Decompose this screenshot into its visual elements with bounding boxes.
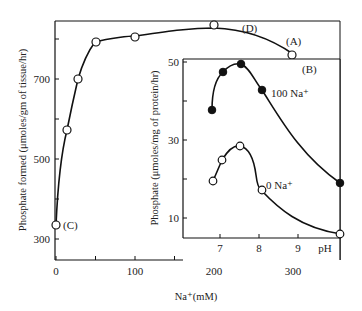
main-ytick-300: 300: [34, 233, 51, 245]
data-point: [258, 86, 266, 94]
data-point: [131, 33, 139, 41]
data-point: [210, 21, 218, 29]
label-a: (A): [286, 35, 302, 48]
inset-ytick-50: 50: [168, 56, 180, 68]
inset-xtick-8: 8: [256, 242, 262, 254]
inset-chart: 50 30 10 7 8 9 pH Phosphate (μmoles/mg o…: [149, 56, 344, 268]
main-y-axis-title: Phosphate formed (μmoles/gm of tissue/hr…: [17, 48, 29, 231]
inset-xtick-9: 9: [295, 242, 301, 254]
data-point: [208, 106, 216, 114]
main-xtick-0: 0: [53, 265, 59, 277]
data-point: [258, 186, 266, 194]
inset-x-axis-title: pH: [318, 242, 332, 254]
data-point: [288, 51, 296, 59]
label-100-na: 100 Na⁺: [271, 87, 309, 99]
inset-ytick-10: 10: [168, 212, 180, 224]
data-point: [236, 142, 244, 150]
data-point: [237, 60, 245, 68]
main-x-axis-title: Na⁺(mM): [175, 291, 218, 303]
data-point: [63, 126, 71, 134]
data-point: [209, 177, 217, 185]
data-point: [218, 156, 226, 164]
data-point: [219, 68, 227, 76]
data-point: [92, 38, 100, 46]
inset-xtick-7: 7: [217, 242, 223, 254]
label-b: (B): [302, 63, 317, 76]
label-c: (C): [63, 219, 78, 232]
label-d: (D): [242, 22, 258, 35]
label-0-na: 0 Na⁺: [266, 179, 293, 191]
figure: 300 500 700 0 100 200 300 Phosphate form…: [0, 0, 362, 311]
main-ytick-500: 500: [34, 153, 51, 165]
inset-y-axis-title: Phosphate (μmoles/mg of protein/hr): [149, 70, 161, 226]
data-point: [74, 75, 82, 83]
data-point: [52, 221, 60, 229]
inset-ytick-30: 30: [168, 134, 180, 146]
main-xtick-100: 100: [127, 265, 144, 277]
data-point: [336, 230, 344, 238]
main-ytick-700: 700: [34, 73, 51, 85]
data-point: [336, 179, 344, 187]
